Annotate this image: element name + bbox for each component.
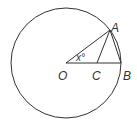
point-label-b: B	[123, 69, 131, 83]
point-label-o: O	[58, 69, 67, 83]
geometry-diagram: x° O C B A	[0, 0, 137, 125]
point-label-c: C	[92, 69, 101, 83]
angle-label: x°	[75, 52, 85, 63]
point-label-a: A	[110, 21, 119, 35]
